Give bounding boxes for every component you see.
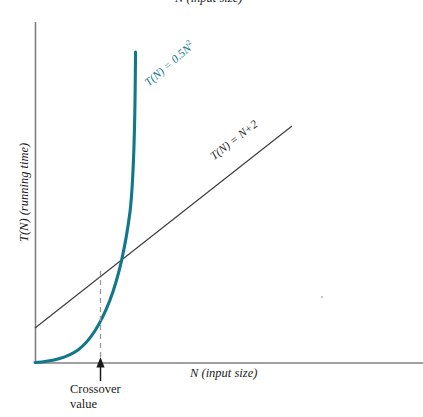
scan-speck — [321, 296, 323, 298]
top-axis-caption-text: N (input size) — [175, 0, 242, 5]
x-axis-caption: N (input size) — [190, 366, 257, 381]
crossover-annotation-line-1: Crossover — [70, 382, 121, 397]
x-axis-caption-text: N (input size) — [190, 366, 257, 380]
y-axis-caption: T(N) (running time) — [17, 122, 32, 262]
plot-canvas — [0, 0, 423, 417]
crossover-arrow-icon — [96, 357, 104, 381]
crossover-annotation-line-2: value — [70, 397, 121, 412]
chart-figure: N (input size) N (input size) T(N) (runn… — [0, 0, 423, 417]
linear-series-line — [35, 126, 292, 328]
top-axis-caption: N (input size) — [175, 0, 242, 6]
crossover-annotation: Crossover value — [70, 382, 121, 412]
y-axis-caption-text: T(N) (running time) — [17, 143, 31, 242]
